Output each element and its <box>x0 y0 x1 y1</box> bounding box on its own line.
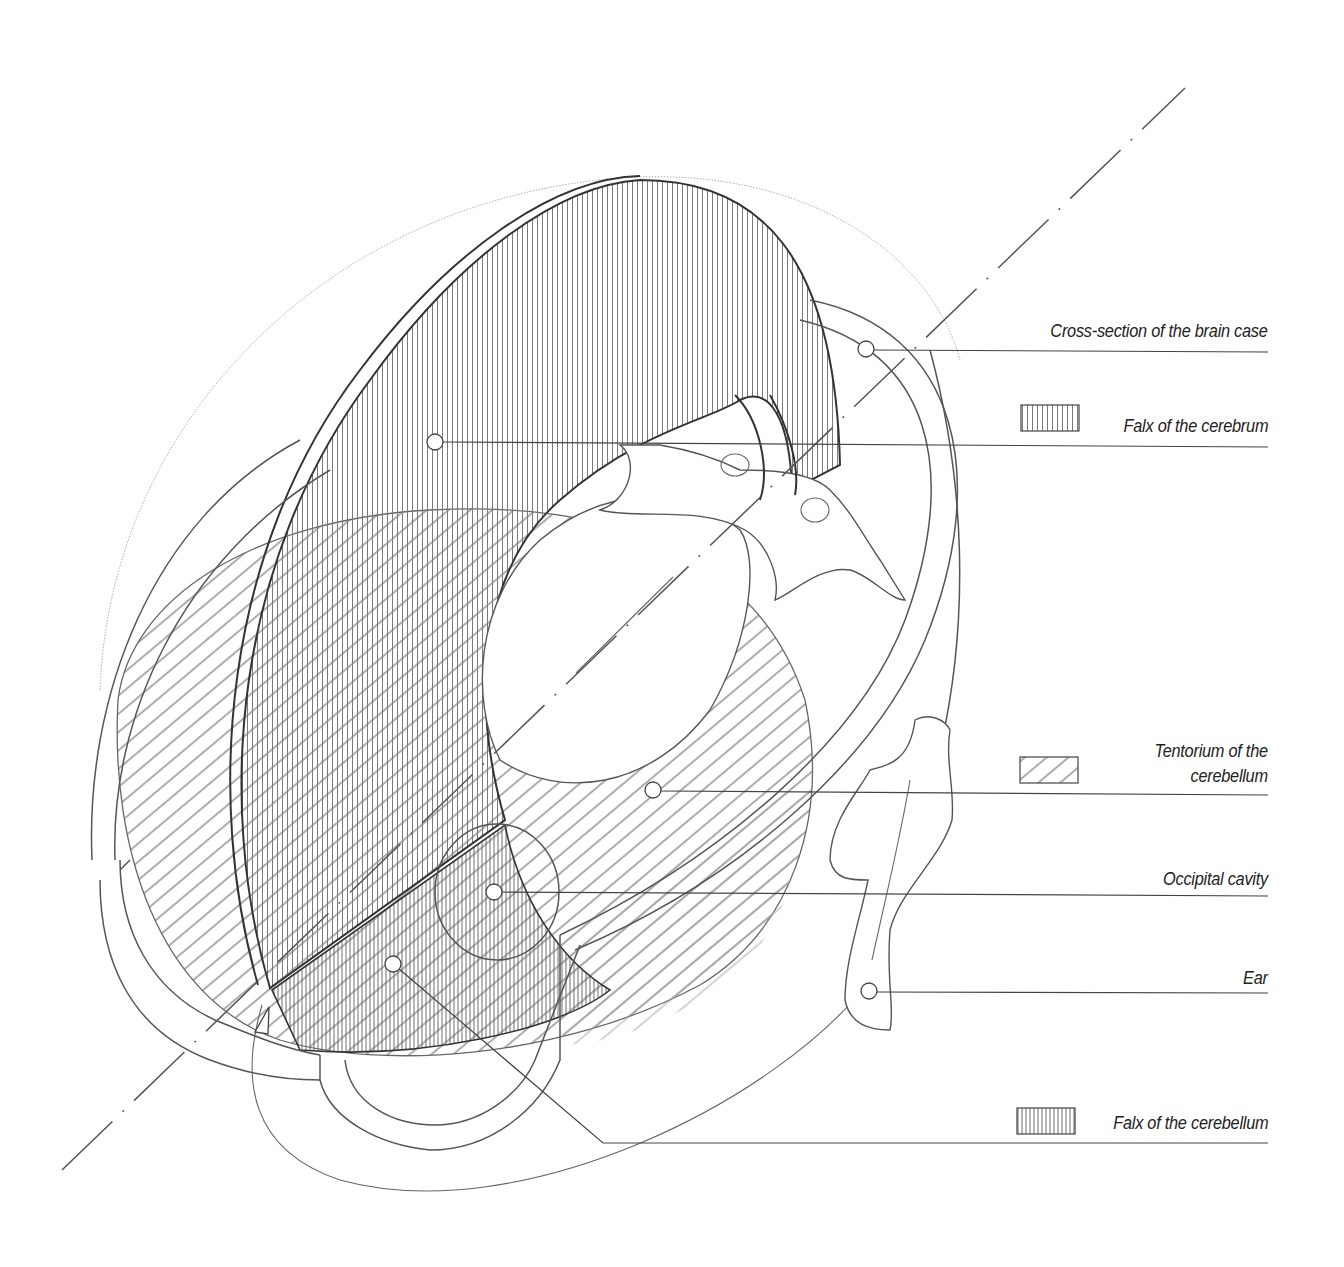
marker-falx-cerebellum <box>385 956 401 972</box>
legend-swatch-falx-cerebellum <box>1017 1108 1075 1134</box>
legend-swatch-falx-cerebrum <box>1021 405 1079 431</box>
label-falx-cerebellum: Falx of the cerebellum <box>1113 1110 1268 1135</box>
label-ear: Ear <box>1243 965 1268 990</box>
label-tentorium-cerebellum: Tentorium of the cerebellum <box>1155 738 1268 788</box>
legend-swatch-tentorium <box>1020 757 1078 783</box>
leader-cross-section <box>858 341 1268 357</box>
brain-dura-diagram <box>0 0 1344 1267</box>
label-cross-section-brain-case: Cross-section of the brain case <box>1051 318 1268 343</box>
marker-falx-cerebrum <box>427 434 443 450</box>
label-falx-cerebrum: Falx of the cerebrum <box>1123 413 1268 438</box>
label-occipital-cavity: Occipital cavity <box>1163 866 1268 891</box>
marker-occipital-cavity <box>486 884 502 900</box>
marker-ear <box>861 983 877 999</box>
leader-ear <box>861 983 1268 999</box>
marker-cross-section <box>858 341 874 357</box>
marker-tentorium <box>645 782 661 798</box>
